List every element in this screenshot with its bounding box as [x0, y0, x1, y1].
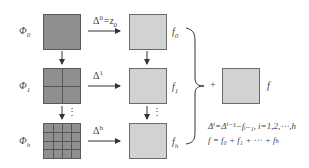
f-h-label: fh — [172, 136, 178, 150]
delta-0-label: Δ0=z0 — [93, 14, 117, 29]
result-f-label: f — [267, 80, 270, 91]
equation-f-sum: f = f₀ + f₁ + ⋯ + fₕ — [208, 135, 279, 145]
phi-0-square — [43, 14, 81, 50]
phi-h-square — [43, 123, 81, 159]
phi-0-label: Φ0 — [19, 25, 30, 39]
ellipsis-left: ⋮ — [67, 106, 77, 117]
ellipsis-mid: ⋮ — [152, 106, 162, 117]
phi-1-label: Φ1 — [19, 80, 30, 94]
plus-sign: + — [210, 79, 216, 90]
delta-1-label: Δ1 — [93, 69, 103, 81]
f-0-label: f0 — [172, 26, 178, 40]
phi-h-label: Φh — [19, 135, 30, 149]
brace-icon — [186, 28, 204, 144]
result-f-square — [222, 68, 260, 104]
f-1-square — [129, 68, 167, 104]
delta-h-label: Δh — [93, 124, 103, 136]
f-1-label: f1 — [172, 81, 178, 95]
f-h-square — [129, 123, 167, 159]
phi-1-square — [43, 68, 81, 104]
f-0-square — [129, 14, 167, 50]
equation-delta-recurrence: Δⁱ=Δⁱ⁻¹−fᵢ₋₁, i=1,2,⋯,h — [208, 121, 296, 131]
